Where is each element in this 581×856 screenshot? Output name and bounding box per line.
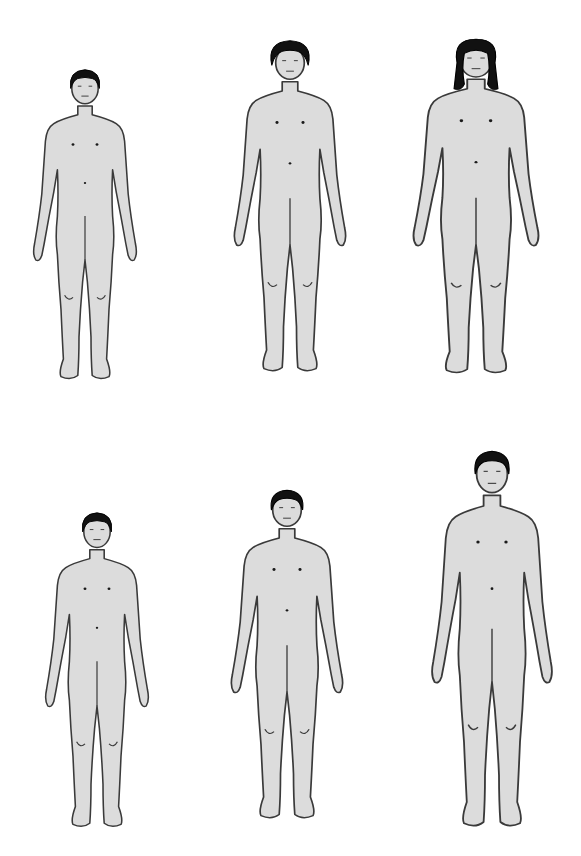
female-figure-early — [25, 62, 145, 392]
female-figure-late — [403, 32, 549, 387]
male-figure-late — [422, 442, 562, 842]
female-figure-middle — [225, 35, 355, 385]
male-figure-middle — [222, 482, 352, 832]
male-figure-early — [37, 505, 157, 840]
